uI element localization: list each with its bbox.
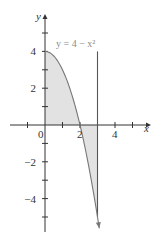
y-tick-label: 4 <box>31 45 37 57</box>
y-axis-arrow-icon <box>43 14 48 19</box>
shaded-region-left <box>45 51 80 125</box>
y-tick-label: −4 <box>24 193 36 205</box>
x-tick-label: 2 <box>77 128 83 140</box>
curve-arrow-icon <box>96 222 101 228</box>
x-axis-label: x <box>143 122 149 134</box>
x-tick-label: 4 <box>112 128 118 140</box>
y-tick-label: 2 <box>31 82 37 94</box>
x-tick-label: 0 <box>38 128 44 140</box>
shaded-region <box>45 51 98 217</box>
equation-label: y = 4 − x² <box>56 38 95 49</box>
y-tick-label: −2 <box>24 156 36 168</box>
area-chart: 02442−2−4 y = 4 − x² x y <box>0 0 153 238</box>
y-axis-label: y <box>35 10 41 22</box>
